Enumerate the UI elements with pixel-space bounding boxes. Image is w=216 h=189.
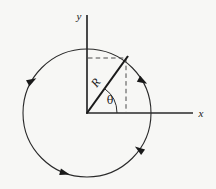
circular-motion-figure: y x R θ xyxy=(0,0,216,189)
x-axis-label: x xyxy=(198,107,204,119)
figure-canvas: y x R θ xyxy=(0,0,216,189)
y-axis-label: y xyxy=(76,10,82,22)
angle-label: θ xyxy=(107,94,114,107)
